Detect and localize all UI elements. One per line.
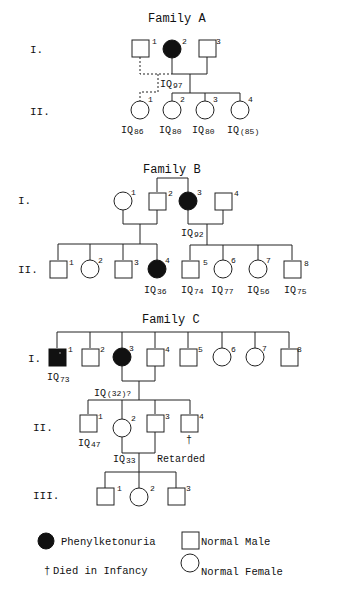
family-c-ii1-iq: IQ47	[78, 438, 101, 449]
family-b-ii8-male-symbol	[284, 261, 301, 278]
member-number: 3	[186, 484, 191, 493]
member-number: 3	[165, 412, 170, 421]
member-number: 2	[131, 414, 136, 423]
family-b-gen-ii-label: II.	[18, 264, 38, 276]
member-number: 8	[304, 259, 309, 268]
family-b-i1-female-symbol	[114, 192, 132, 210]
legend-affected-icon	[38, 533, 54, 549]
family-b-title: Family B	[143, 163, 201, 177]
family-c-ii3-note: Retarded	[157, 454, 205, 465]
family-a-ii2-female-symbol	[163, 101, 181, 119]
member-number: 2	[168, 189, 173, 198]
family-b-ii7-female-symbol	[249, 260, 267, 278]
family-c-ii2-iq: IQ33	[113, 454, 136, 465]
family-a-ii4-female-symbol	[231, 101, 249, 119]
family-a-i1-male-symbol	[132, 40, 149, 57]
legend-female-label: Normal Female	[201, 566, 283, 578]
family-a: Family A I. II. 1 2 3 IQ97 1 2 3 4 IQ86 …	[30, 12, 259, 136]
member-number: 4	[165, 256, 170, 265]
family-c-mating-line-i	[122, 366, 155, 381]
family-c-ii4-dagger: †	[186, 435, 192, 446]
member-number: 8	[297, 345, 302, 354]
family-a-ii4-iq: IQ(85)	[227, 125, 259, 136]
family-c-i3-iq: IQ(32)?	[94, 388, 131, 399]
family-c-gen-iii-label: III.	[33, 490, 59, 502]
family-b-ii1-male-symbol	[50, 261, 67, 278]
member-number: 1	[148, 95, 153, 104]
family-b-mating-line-left	[123, 210, 157, 224]
legend-dagger-icon: †	[44, 565, 50, 577]
member-number: 1	[152, 37, 157, 46]
family-b: Family B I. II. 1 2 3 4 IQ92 1 2 3 4 5	[18, 163, 309, 296]
member-number: 4	[234, 189, 239, 198]
member-number: 1	[117, 484, 122, 493]
member-number: 4	[248, 95, 253, 104]
family-a-ii2-iq: IQ80	[159, 125, 182, 136]
family-b-ii3-male-symbol	[115, 261, 132, 278]
family-c-ii1-male-symbol	[80, 415, 97, 432]
family-c-sibship-gen-ii	[88, 400, 190, 419]
family-b-ii5-male-symbol	[182, 261, 199, 278]
family-c-i4-male-symbol	[147, 349, 164, 366]
family-a-dashed-mating-line	[140, 57, 172, 74]
family-a-i3-male-symbol	[199, 40, 216, 57]
member-number: 1	[98, 412, 103, 421]
family-c-i2-male-symbol	[82, 349, 99, 366]
legend-female-icon	[181, 554, 199, 572]
family-c-sibship-gen-i	[57, 332, 289, 348]
member-number: 7	[266, 256, 271, 265]
family-c-i1-affected-male-symbol	[49, 349, 66, 366]
pedigree-diagram: Family A I. II. 1 2 3 IQ97 1 2 3 4 IQ86 …	[0, 0, 338, 590]
member-number: 3	[213, 95, 218, 104]
family-b-ii7-iq: IQ56	[247, 285, 270, 296]
member-number: 2	[150, 484, 155, 493]
family-b-i2-male-symbol	[149, 193, 166, 210]
member-number: 3	[216, 37, 221, 46]
family-b-ii8-iq: IQ75	[284, 285, 307, 296]
family-a-gen-ii-label: II.	[30, 106, 50, 118]
family-a-ii1-iq: IQ86	[121, 125, 144, 136]
family-c-iii2-female-symbol	[130, 488, 148, 506]
member-number: 2	[100, 345, 105, 354]
member-number: 1	[69, 258, 74, 267]
family-b-i3-affected-female-symbol	[179, 192, 197, 210]
legend-died-label: Died in Infancy	[53, 565, 148, 577]
member-number: 2	[182, 37, 187, 46]
family-c-iii1-male-symbol	[97, 488, 114, 505]
family-c-i5-male-symbol	[180, 349, 197, 366]
legend-male-icon	[182, 532, 199, 549]
member-number: 6	[231, 345, 236, 354]
member-number: 3	[129, 344, 134, 353]
member-number: 5	[203, 258, 208, 267]
member-number: 2	[180, 95, 185, 104]
family-c-iii3-male-symbol	[168, 488, 185, 505]
family-a-title: Family A	[148, 12, 206, 26]
family-c-gen-ii-label: II.	[33, 422, 53, 434]
member-number: 4	[199, 412, 204, 421]
family-a-i2-iq: IQ97	[160, 79, 183, 90]
member-number: 4	[165, 345, 170, 354]
family-b-ii6-iq: IQ77	[211, 285, 234, 296]
family-a-ii3-female-symbol	[196, 101, 214, 119]
family-c-gen-i-label: I.	[28, 353, 41, 365]
family-a-ii3-iq: IQ80	[192, 125, 215, 136]
member-number: 2	[98, 256, 103, 265]
member-number: 3	[197, 188, 202, 197]
family-c-sibship-gen-iii	[105, 472, 176, 488]
legend-male-label: Normal Male	[201, 536, 270, 548]
member-number: 1	[68, 345, 73, 354]
member-number: 5	[198, 345, 203, 354]
family-b-i4-male-symbol	[215, 193, 232, 210]
member-number: 7	[262, 344, 267, 353]
legend: Phenylketonuria Normal Male † Died in In…	[38, 532, 283, 578]
member-number: 6	[231, 256, 236, 265]
family-c-ii3-male-symbol	[147, 415, 164, 432]
family-c-ii2-female-symbol	[113, 419, 131, 437]
family-c-title: Family C	[142, 313, 200, 327]
family-b-i3-iq: IQ92	[181, 228, 204, 239]
family-c-ii4-male-symbol	[181, 415, 198, 432]
family-c-i6-female-symbol	[213, 348, 231, 366]
family-a-ii1-female-symbol	[131, 101, 149, 119]
family-a-i2-affected-female-symbol	[163, 40, 181, 58]
family-b-ii2-female-symbol	[81, 260, 99, 278]
